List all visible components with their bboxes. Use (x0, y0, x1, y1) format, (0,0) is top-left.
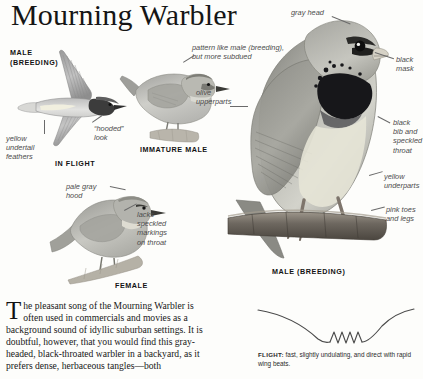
label-lacks-speckled-markings: lacks speckled markings on throat (137, 210, 189, 247)
label-yellow-underparts: yellow underparts (384, 172, 423, 190)
male-breeding-caption: MALE (BREEDING) (272, 267, 345, 276)
article-paragraph: often used in commercials and movies as … (6, 312, 203, 371)
female-caption: FEMALE (115, 281, 148, 290)
field-guide-page: Mourning Warbler MALE (BREEDING) (0, 0, 423, 379)
leader-undertail (44, 120, 45, 134)
label-black-bib-speckled-throat: black bib and speckled throat (393, 118, 423, 155)
label-pale-gray-hood: pale gray hood (66, 182, 114, 200)
immature-male-caption: IMMATURE MALE (140, 145, 208, 154)
article-dropcap: T (6, 300, 23, 320)
flight-path-diagram (256, 306, 416, 350)
label-black-mask: black mask (396, 55, 423, 73)
article-body: The pleasant song of the Mourning Warble… (6, 300, 210, 373)
article-first-line: he pleasant song of the Mourning Warbler… (23, 300, 193, 311)
in-flight-bottom-caption: IN FLIGHT (55, 159, 95, 168)
bird-illustration-male-breeding (228, 4, 388, 266)
flight-label: FLIGHT: (258, 351, 284, 358)
page-title: Mourning Warbler (11, 0, 237, 32)
label-pink-toes-and-legs: pink toes and legs (386, 205, 423, 223)
flight-note: FLIGHT: fast, slightly undulating, and d… (258, 351, 418, 368)
label-gray-head: gray head (291, 8, 324, 17)
label-yellow-undertail-feathers: yellow undertail feathers (6, 134, 50, 162)
